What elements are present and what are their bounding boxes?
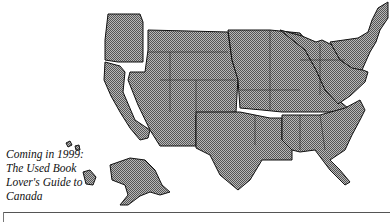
caption-line: The Used Book [6,161,126,175]
box-border-left [3,212,4,222]
caption-line: Coming in 1999: [6,147,126,161]
region-south-central [196,112,292,190]
horizontal-rule [3,212,390,213]
region-pacific-northwest [105,14,143,62]
caption-line: Lover's Guide to [6,175,126,189]
region-southeast [282,100,365,185]
caption-text: Coming in 1999: The Used Book Lover's Gu… [6,147,126,203]
caption-line: Canada [6,189,126,203]
